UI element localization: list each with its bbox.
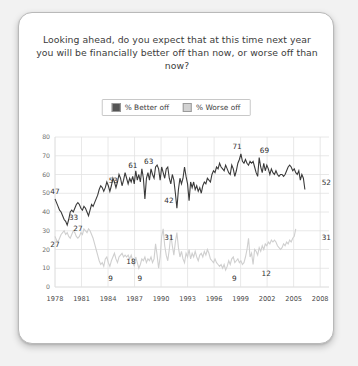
- data-label: 42: [164, 196, 173, 205]
- grid-lines: [55, 137, 329, 287]
- chart-legend: % Better off % Worse off: [102, 99, 251, 116]
- x-tick-label: 2002: [259, 295, 276, 303]
- x-tick-label: 1987: [126, 295, 143, 303]
- x-tick-label: 1978: [47, 295, 64, 303]
- y-tick-label: 40: [42, 208, 50, 215]
- y-tick-label: 80: [42, 133, 50, 140]
- chart-card: Looking ahead, do you expect that at thi…: [18, 12, 334, 344]
- data-label: 71: [232, 142, 241, 151]
- legend-label-worse-off: % Worse off: [196, 103, 240, 112]
- x-axis-ticks: 1978198119841987199019931996199920022005…: [47, 295, 329, 303]
- data-label: 18: [126, 257, 136, 266]
- legend-swatch-better-off: [112, 103, 121, 112]
- legend-label-better-off: % Better off: [125, 103, 169, 112]
- y-tick-label: 50: [42, 189, 50, 196]
- y-tick-label: 70: [42, 152, 50, 159]
- data-label: 53: [109, 176, 119, 185]
- data-label: 12: [262, 269, 271, 278]
- y-tick-label: 30: [42, 227, 50, 234]
- y-tick-label: 20: [42, 246, 50, 253]
- data-label: 61: [128, 161, 137, 170]
- line-chart: 01020304050607080 1978198119841987199019…: [19, 123, 335, 323]
- data-labels-group: 473327536163427169522791893191231: [50, 142, 331, 283]
- x-tick-label: 1981: [73, 295, 90, 303]
- x-tick-label: 2005: [285, 295, 302, 303]
- legend-swatch-worse-off: [183, 103, 192, 112]
- data-label: 69: [260, 146, 270, 155]
- y-tick-label: 0: [46, 283, 50, 290]
- data-label: 31: [322, 233, 331, 242]
- data-label: 9: [108, 274, 113, 283]
- x-tick-label: 1999: [232, 295, 249, 303]
- data-label: 27: [73, 224, 83, 233]
- data-label: 63: [144, 157, 154, 166]
- chart-title: Looking ahead, do you expect that at thi…: [33, 33, 321, 73]
- data-label: 47: [50, 187, 60, 196]
- data-label: 9: [232, 274, 237, 283]
- legend-entry-worse-off[interactable]: % Worse off: [183, 103, 240, 112]
- x-tick-label: 1990: [153, 295, 170, 303]
- x-tick-label: 1996: [206, 295, 223, 303]
- y-tick-label: 60: [42, 171, 50, 178]
- chart-plot-area: 01020304050607080 1978198119841987199019…: [19, 123, 335, 323]
- x-tick-label: 1993: [179, 295, 196, 303]
- data-label: 27: [50, 240, 60, 249]
- y-tick-label: 10: [42, 264, 50, 271]
- data-label: 33: [69, 213, 79, 222]
- data-label: 9: [138, 274, 143, 283]
- y-axis-ticks: 01020304050607080: [42, 133, 50, 290]
- x-tick-label: 2008: [312, 295, 329, 303]
- legend-entry-better-off[interactable]: % Better off: [112, 103, 169, 112]
- data-label: 52: [322, 178, 331, 187]
- x-tick-label: 1984: [100, 295, 117, 303]
- data-label: 31: [164, 233, 173, 242]
